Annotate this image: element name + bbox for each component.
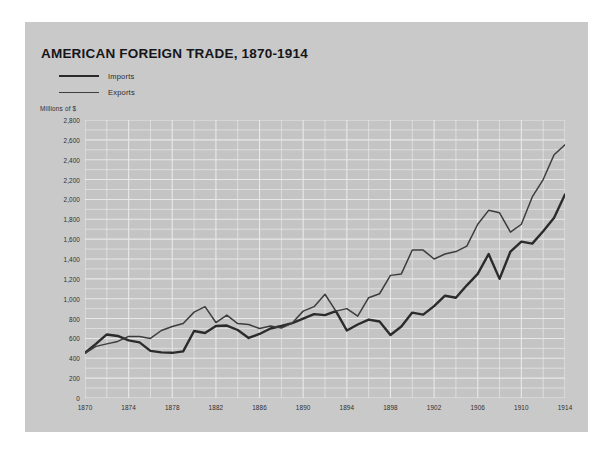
x-axis-tick-label: 1870 xyxy=(78,404,93,411)
x-axis-tick-label: 1890 xyxy=(296,404,311,411)
y-axis-tick-label: 1,200 xyxy=(64,275,81,282)
plot-area: 02004006008001,0001,2001,4001,6001,8002,… xyxy=(85,120,565,398)
chart-card: AMERICAN FOREIGN TRADE, 1870-1914 Import… xyxy=(25,22,588,432)
x-axis-tick-label: 1910 xyxy=(514,404,529,411)
x-axis-tick-label: 1894 xyxy=(340,404,355,411)
x-axis-tick-label: 1906 xyxy=(470,404,485,411)
y-axis-tick-label: 1,400 xyxy=(64,256,81,263)
x-axis-tick-label: 1902 xyxy=(427,404,442,411)
x-axis-tick-label: 1914 xyxy=(558,404,573,411)
y-axis-tick-label: 2,400 xyxy=(64,156,81,163)
y-axis-tick-label: 2,800 xyxy=(64,117,81,124)
y-axis-tick-label: 2,200 xyxy=(64,176,81,183)
legend-item-exports: Exports xyxy=(59,86,135,98)
series-line-imports xyxy=(85,194,565,352)
x-axis-tick-label: 1886 xyxy=(252,404,267,411)
y-axis-tick-label: 1,000 xyxy=(64,295,81,302)
x-axis-tick-label: 1882 xyxy=(209,404,224,411)
y-axis-tick-label: 2,600 xyxy=(64,136,81,143)
y-axis-tick-label: 600 xyxy=(69,335,80,342)
legend-label-imports: Imports xyxy=(108,72,134,81)
y-axis-tick-label: 1,800 xyxy=(64,216,81,223)
y-axis-tick-label: 200 xyxy=(69,375,80,382)
series-line-exports xyxy=(85,145,565,354)
y-axis-tick-label: 0 xyxy=(76,395,80,402)
x-axis-tick-label: 1898 xyxy=(383,404,398,411)
y-axis-tick-label: 2,000 xyxy=(64,196,81,203)
y-axis-tick-label: 800 xyxy=(69,315,80,322)
legend-swatch-imports xyxy=(59,75,99,77)
y-axis-tick-label: 400 xyxy=(69,355,80,362)
chart-page: AMERICAN FOREIGN TRADE, 1870-1914 Import… xyxy=(0,0,612,453)
chart-series-layer xyxy=(85,120,565,398)
page-title: AMERICAN FOREIGN TRADE, 1870-1914 xyxy=(41,46,308,61)
y-axis-tick-label: 1,600 xyxy=(64,236,81,243)
legend-label-exports: Exports xyxy=(108,88,135,97)
x-axis-tick-label: 1874 xyxy=(121,404,136,411)
x-axis-tick-label: 1878 xyxy=(165,404,180,411)
legend-swatch-exports xyxy=(59,92,99,93)
y-axis-unit-label: Millions of $ xyxy=(40,105,76,112)
legend-item-imports: Imports xyxy=(59,70,134,82)
